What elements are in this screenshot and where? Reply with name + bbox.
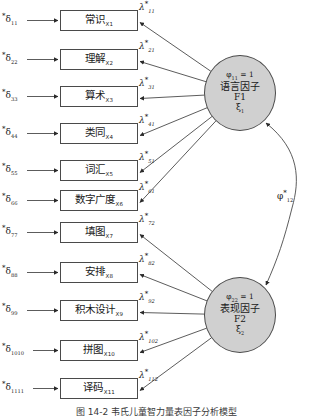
error-term-delta-x9: *δ99 [2, 302, 26, 316]
factor-covariance-phi12: φ*12 [277, 189, 293, 203]
loading-lambda-x2: λ*21 [139, 39, 155, 53]
factor-symbol: ξ2 [236, 324, 244, 336]
loading-lambda-x1: λ*11 [139, 0, 155, 14]
indicator-box-x9: 积木设计X9 [60, 300, 138, 321]
indicator-box-x10: 拼图X10 [60, 340, 138, 361]
factor-symbol: ξ1 [236, 102, 244, 114]
error-term-delta-x11: *δ1111 [2, 380, 32, 394]
error-term-delta-x1: *δ11 [2, 12, 26, 26]
factor-variance: φ22 = 1 [226, 293, 253, 303]
figure-caption: 图 14-2 韦氏儿童智力量表因子分析模型 [0, 405, 313, 416]
indicator-box-x1: 常识X1 [60, 10, 138, 31]
indicator-box-x6: 数字广度X6 [60, 190, 138, 211]
latent-factor-f2: φ22 = 1表现因子F2ξ2 [204, 277, 276, 353]
error-term-delta-x6: *δ66 [2, 192, 26, 206]
error-term-delta-x10: *δ1010 [2, 342, 32, 356]
indicator-label: 算术X3 [85, 90, 113, 104]
error-term-delta-x3: *δ33 [2, 88, 26, 102]
diagram-edges [0, 0, 313, 416]
error-term-delta-x7: *δ77 [2, 224, 26, 238]
loading-lambda-x5: λ*51 [139, 150, 155, 164]
indicator-box-x5: 词汇X5 [60, 160, 138, 181]
loading-lambda-x6: λ*61 [139, 180, 155, 194]
error-term-delta-x5: *δ55 [2, 162, 26, 176]
factor-name: 表现因子 [220, 303, 260, 314]
indicator-label: 数字广度X6 [75, 194, 123, 208]
indicator-label: 拼图X10 [83, 344, 114, 358]
latent-factor-f1: φ11 = 1语言因子F1ξ1 [204, 55, 276, 131]
error-term-delta-x2: *δ22 [2, 51, 26, 65]
indicator-box-x4: 类同X4 [60, 123, 138, 144]
indicator-label: 理解X2 [85, 53, 113, 67]
indicator-label: 译码X11 [83, 382, 114, 396]
loading-lambda-x8: λ*82 [139, 252, 155, 266]
indicator-label: 常识X1 [85, 14, 113, 28]
indicator-label: 词汇X5 [85, 164, 113, 178]
indicator-label: 填图X7 [85, 226, 113, 240]
indicator-box-x8: 安排X8 [60, 262, 138, 283]
factor-variance: φ11 = 1 [226, 71, 253, 81]
sem-path-diagram: 常识X1*δ11λ*11理解X2*δ22λ*21算术X3*δ33λ*31类同X4… [0, 0, 313, 416]
indicator-box-x11: 译码X11 [60, 378, 138, 399]
factor-code: F1 [234, 92, 246, 102]
indicator-label: 安排X8 [85, 266, 113, 280]
indicator-box-x3: 算术X3 [60, 86, 138, 107]
indicator-box-x2: 理解X2 [60, 49, 138, 70]
indicator-label: 积木设计X9 [75, 304, 123, 318]
loading-lambda-x11: λ*112 [139, 368, 158, 382]
error-term-delta-x8: *δ88 [2, 264, 26, 278]
loading-lambda-x7: λ*72 [139, 212, 155, 226]
loading-lambda-x10: λ*102 [139, 330, 158, 344]
factor-code: F2 [234, 314, 246, 324]
loading-lambda-x4: λ*41 [139, 113, 155, 127]
factor-name: 语言因子 [220, 81, 260, 92]
loading-lambda-x9: λ*92 [139, 290, 155, 304]
indicator-label: 类同X4 [85, 127, 113, 141]
error-term-delta-x4: *δ44 [2, 125, 26, 139]
indicator-box-x7: 填图X7 [60, 222, 138, 243]
loading-lambda-x3: λ*31 [139, 76, 155, 90]
